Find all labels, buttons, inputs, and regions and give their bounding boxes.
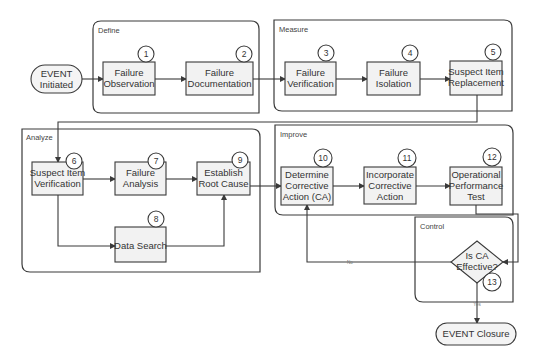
event-closure-terminal: EVENT Closure bbox=[436, 323, 516, 345]
svg-text:Observation: Observation bbox=[103, 78, 154, 89]
svg-text:Action (CA): Action (CA) bbox=[283, 191, 332, 202]
svg-text:Performance: Performance bbox=[449, 180, 503, 191]
svg-text:Establish: Establish bbox=[204, 167, 243, 178]
group-label-analyze: Analyze bbox=[26, 133, 53, 142]
svg-text:Analysis: Analysis bbox=[123, 178, 159, 189]
step-number: 9 bbox=[238, 155, 243, 165]
step-4-failure-isolation: Failure Isolation 4 bbox=[367, 45, 420, 95]
svg-text:Failure: Failure bbox=[205, 67, 234, 78]
group-label-improve: Improve bbox=[280, 130, 307, 139]
svg-text:Failure: Failure bbox=[126, 167, 155, 178]
step-3-failure-verification: Failure Verification 3 bbox=[285, 45, 336, 95]
svg-text:Root Cause: Root Cause bbox=[198, 178, 248, 189]
flowchart: Define Measure Analyze Improve Control bbox=[0, 0, 535, 364]
step-number: 1 bbox=[144, 49, 149, 59]
svg-text:EVENT: EVENT bbox=[41, 68, 73, 79]
group-label-control: Control bbox=[420, 222, 445, 231]
step-7-failure-analysis: Failure Analysis 7 bbox=[115, 153, 166, 195]
svg-text:Suspect Item: Suspect Item bbox=[448, 66, 504, 77]
group-label-measure: Measure bbox=[279, 25, 308, 34]
svg-text:Initiated: Initiated bbox=[40, 79, 73, 90]
svg-text:Data Search: Data Search bbox=[114, 240, 167, 251]
svg-text:Verification: Verification bbox=[287, 78, 333, 89]
step-number: 3 bbox=[324, 48, 329, 58]
svg-text:Failure: Failure bbox=[296, 67, 325, 78]
svg-text:Corrective: Corrective bbox=[368, 180, 411, 191]
svg-text:Action: Action bbox=[377, 191, 403, 202]
svg-text:Determine: Determine bbox=[285, 169, 329, 180]
step-2-failure-documentation: Failure Documentation 2 bbox=[186, 46, 253, 95]
step-number: 10 bbox=[318, 153, 328, 163]
step-number: 6 bbox=[72, 156, 77, 166]
step-9-establish-root-cause: Establish Root Cause 9 bbox=[197, 152, 250, 195]
step-number: 4 bbox=[408, 48, 413, 58]
step-number: 5 bbox=[491, 47, 496, 57]
event-initiated-terminal: EVENT Initiated bbox=[31, 65, 82, 93]
step-number: 2 bbox=[242, 49, 247, 59]
svg-text:Failure: Failure bbox=[379, 67, 408, 78]
step-number: 8 bbox=[154, 214, 159, 224]
step-12-operational-performance-test: Operational Performance Test 12 bbox=[449, 148, 503, 205]
group-label-define: Define bbox=[98, 26, 120, 35]
svg-text:Isolation: Isolation bbox=[376, 78, 411, 89]
step-1-failure-observation: Failure Observation 1 bbox=[103, 46, 155, 95]
svg-text:Failure: Failure bbox=[114, 67, 143, 78]
svg-text:Verification: Verification bbox=[34, 178, 80, 189]
step-11-incorporate-corrective-action: Incorporate Corrective Action 11 bbox=[364, 149, 416, 204]
step-number: 12 bbox=[487, 152, 497, 162]
svg-text:EVENT Closure: EVENT Closure bbox=[443, 328, 510, 339]
step-number: 13 bbox=[487, 277, 497, 287]
svg-text:Is CA: Is CA bbox=[465, 250, 489, 261]
svg-text:Corrective: Corrective bbox=[285, 180, 328, 191]
svg-text:Effective?: Effective? bbox=[456, 261, 498, 272]
step-number: 7 bbox=[154, 156, 159, 166]
svg-text:Test: Test bbox=[467, 191, 485, 202]
svg-text:Incorporate: Incorporate bbox=[366, 169, 414, 180]
step-10-determine-corrective-action: Determine Corrective Action (CA) 10 bbox=[281, 149, 333, 205]
svg-text:Operational: Operational bbox=[451, 169, 500, 180]
svg-text:Replacement: Replacement bbox=[448, 77, 504, 88]
yes-label: Yes bbox=[473, 302, 481, 307]
decision-is-ca-effective: Is CA Effective? 13 bbox=[451, 241, 503, 291]
svg-text:Documentation: Documentation bbox=[188, 78, 252, 89]
step-number: 11 bbox=[403, 153, 412, 163]
no-label: No bbox=[347, 260, 353, 265]
step-5-suspect-item-replacement: Suspect Item Replacement 5 bbox=[448, 44, 504, 95]
step-8-data-search: Data Search 8 bbox=[114, 211, 167, 262]
